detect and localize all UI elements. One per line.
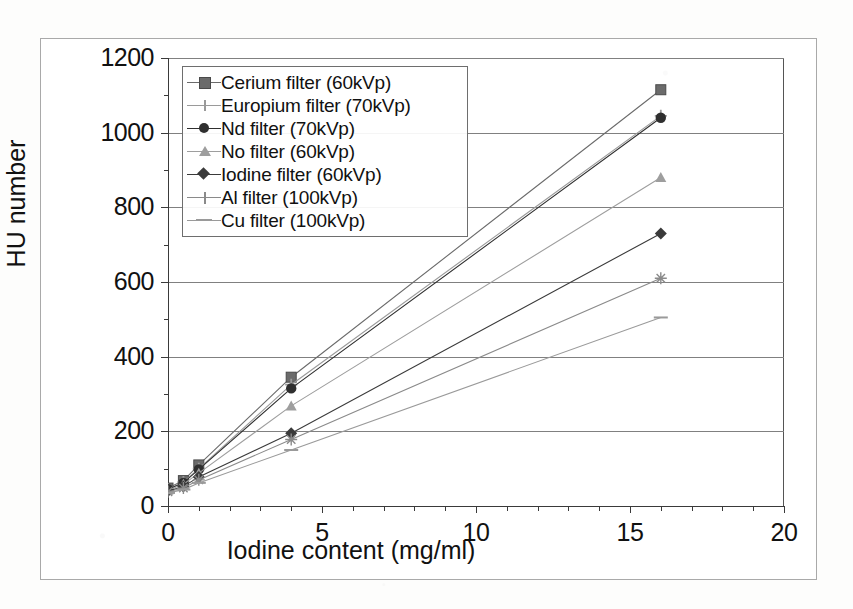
legend-item-label: Al filter (100kVp): [221, 187, 358, 209]
legend-item[interactable]: Nd filter (70kVp): [187, 117, 461, 140]
data-point-marker-star: [193, 474, 205, 486]
x-axis-major-tick: [476, 506, 477, 513]
legend-item-label: Europium filter (70kVp): [221, 95, 411, 117]
y-axis-tick-label: 800: [114, 192, 154, 221]
y-axis-title: HU number: [2, 140, 31, 268]
y-axis-tick-label: 600: [114, 267, 154, 296]
legend-marker-glyph: [199, 123, 209, 133]
series-line: [168, 278, 661, 492]
legend-item-label: Nd filter (70kVp): [221, 118, 355, 140]
series-4: [168, 227, 667, 497]
legend-item-label: No filter (60kVp): [221, 141, 355, 163]
legend-marker-diamond-icon: [187, 166, 221, 184]
legend-item[interactable]: Iodine filter (60kVp): [187, 163, 461, 186]
y-axis-tick-label: 1000: [100, 118, 154, 147]
data-point-marker-diamond: [655, 227, 667, 239]
data-point-marker-star: [655, 272, 667, 284]
series-5: [168, 272, 667, 498]
y-axis-major-tick: [161, 506, 168, 507]
legend-marker-triangle-icon: [187, 143, 221, 161]
data-point-marker-dash: [192, 482, 206, 484]
y-axis-major-tick: [161, 431, 168, 432]
series-line: [168, 318, 661, 493]
y-axis-tick-label: 200: [114, 416, 154, 445]
x-axis-major-tick: [630, 506, 631, 513]
legend-item[interactable]: Cerium filter (60kVp): [187, 71, 461, 94]
legend-marker-circle-icon: [187, 120, 221, 138]
legend-marker-plus-icon: [187, 97, 221, 115]
legend-item[interactable]: Europium filter (70kVp): [187, 94, 461, 117]
y-axis-major-tick: [161, 133, 168, 134]
legend-marker-dash-icon: [187, 212, 221, 230]
data-point-marker-dash: [176, 489, 190, 491]
legend-marker-glyph: [199, 192, 211, 204]
legend-marker-glyph: [197, 167, 210, 180]
legend-marker-glyph: [199, 146, 211, 156]
x-axis-major-tick: [784, 506, 785, 513]
data-point-marker-triangle: [286, 400, 297, 410]
legend-item[interactable]: No filter (60kVp): [187, 140, 461, 163]
y-axis-major-tick: [161, 357, 168, 358]
y-axis-tick-label: 0: [141, 491, 154, 520]
scanned-page: 020040060080010001200 05101520 Cerium fi…: [0, 0, 853, 609]
legend-item[interactable]: Cu filter (100kVp): [187, 209, 461, 232]
y-axis-major-tick: [161, 58, 168, 59]
y-axis-major-tick: [161, 282, 168, 283]
x-axis-line: [168, 506, 784, 507]
y-axis-major-tick: [161, 207, 168, 208]
x-axis-tick-label: 20: [754, 518, 814, 547]
x-axis-tick-label: 15: [600, 518, 660, 547]
data-point-marker-dash: [284, 449, 298, 451]
legend-item-label: Cerium filter (60kVp): [221, 72, 391, 94]
y-axis-tick-label: 400: [114, 342, 154, 371]
data-point-marker-square: [656, 85, 666, 95]
x-axis-major-tick: [168, 506, 169, 513]
legend-marker-glyph: [199, 100, 210, 111]
legend-item-label: Cu filter (100kVp): [221, 210, 365, 232]
series-line: [168, 234, 661, 492]
data-point-marker-dash: [168, 492, 175, 494]
data-point-marker-circle: [656, 113, 666, 123]
legend[interactable]: Cerium filter (60kVp)Europium filter (70…: [182, 66, 468, 237]
legend-marker-glyph: [196, 219, 212, 221]
x-axis-title: Iodine content (mg/ml): [101, 536, 601, 565]
x-axis-major-tick: [322, 506, 323, 513]
data-point-marker-circle: [286, 383, 296, 393]
data-point-marker-dash: [654, 316, 668, 318]
legend-marker-star-icon: [187, 189, 221, 207]
legend-marker-glyph: [199, 77, 211, 89]
y-axis-tick-label: 1200: [100, 43, 154, 72]
legend-marker-square-icon: [187, 74, 221, 92]
series-6: [168, 316, 668, 493]
figure-frame: 020040060080010001200 05101520 Cerium fi…: [40, 38, 817, 580]
legend-item[interactable]: Al filter (100kVp): [187, 186, 461, 209]
legend-item-label: Iodine filter (60kVp): [221, 164, 382, 186]
data-point-marker-triangle: [655, 172, 666, 182]
plot-area: 020040060080010001200 05101520 Cerium fi…: [168, 58, 784, 506]
